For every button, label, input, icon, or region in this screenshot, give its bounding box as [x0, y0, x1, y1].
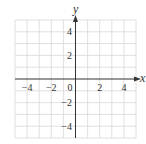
y-axis-label: y [72, 2, 79, 16]
x-tick-label: 2 [97, 82, 102, 93]
y-tick-label: −4 [61, 121, 72, 132]
x-tick-label: −4 [22, 82, 33, 93]
x-axis-label: x [139, 71, 146, 85]
x-tick-label: 4 [121, 82, 126, 93]
x-axis [15, 77, 141, 82]
y-tick-label: 4 [67, 26, 72, 37]
x-tick-label: 0 [68, 82, 73, 93]
y-axis [73, 15, 78, 138]
x-tick-label: −2 [46, 82, 57, 93]
y-axis-arrow-icon [73, 15, 78, 22]
y-tick-label: 2 [67, 50, 72, 61]
x-tick-labels: −4 −2 0 2 4 [22, 82, 127, 93]
y-tick-label: −2 [61, 97, 72, 108]
coordinate-plane: x y −4 −2 0 2 4 4 2 −2 −4 [0, 0, 146, 144]
